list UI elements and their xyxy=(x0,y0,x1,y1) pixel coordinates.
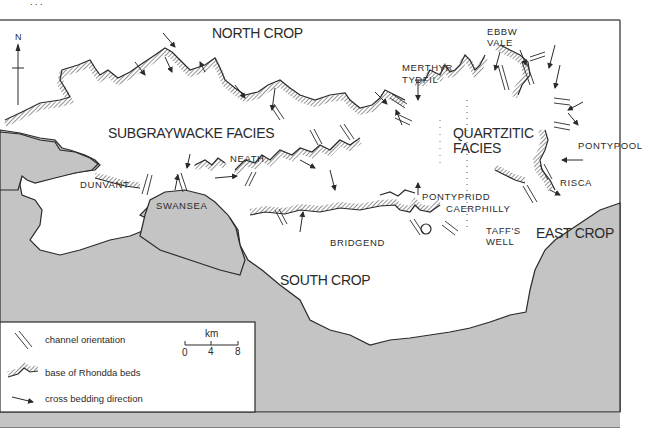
north-crop-label: NORTH CROP xyxy=(212,25,303,41)
town-bridgend: BRIDGEND xyxy=(330,237,385,248)
town-merthyr-1: MERTHYR xyxy=(402,62,453,73)
rhondda-base-outline xyxy=(5,48,405,120)
sea-strip xyxy=(0,412,620,427)
legend: channel orientation base of Rhondda beds… xyxy=(0,322,255,412)
town-dunvant: DUNVANT xyxy=(80,179,129,190)
north-arrow: N xyxy=(12,32,24,105)
scale-tick-8: 8 xyxy=(235,346,241,357)
legend-label-cross-bedding: cross bedding direction xyxy=(45,393,143,404)
north-label: N xyxy=(15,32,22,42)
south-crop-label: SOUTH CROP xyxy=(280,272,370,288)
rhondda-hatch-neath xyxy=(195,161,225,168)
town-taffs-2: WELL xyxy=(486,236,514,247)
town-ebbw-2: VALE xyxy=(487,37,513,48)
town-risca: RISCA xyxy=(560,177,592,188)
town-ebbw-1: EBBW xyxy=(487,26,517,37)
geological-map: . . . xyxy=(0,0,658,443)
legend-label-channel: channel orientation xyxy=(45,334,125,345)
scale-tick-0: 0 xyxy=(182,347,188,358)
rhondda-base-pontypridd xyxy=(380,190,415,196)
town-swansea: SWANSEA xyxy=(156,200,207,211)
scale-tick-4: 4 xyxy=(208,346,214,357)
quartzitic-facies-label-1: QUARTZITIC xyxy=(453,125,534,141)
town-pontypridd: PONTYPRIDD xyxy=(422,191,490,202)
town-caerphilly: CAERPHILLY xyxy=(446,203,510,214)
north-arrowhead-icon xyxy=(16,43,21,51)
town-merthyr-2: TYDFIL xyxy=(402,74,438,85)
town-taffs-1: TAFF'S xyxy=(486,225,521,236)
rhondda-hatch-east-lower xyxy=(536,130,551,190)
rhondda-hatch-north xyxy=(5,52,405,124)
town-neath: NEATH xyxy=(230,153,265,164)
quartzitic-facies-label-2: FACIES xyxy=(453,140,501,156)
title-fragment: . . . xyxy=(30,0,43,7)
rhondda-hatch-south xyxy=(250,202,440,212)
town-pontypool: PONTYPOOL xyxy=(578,140,643,151)
east-crop-label: EAST CROP xyxy=(536,225,614,241)
subgraywacke-facies-label: SUBGRAYWACKE FACIES xyxy=(108,125,274,141)
scale-unit: km xyxy=(205,328,218,339)
legend-label-rhondda: base of Rhondda beds xyxy=(45,367,141,378)
